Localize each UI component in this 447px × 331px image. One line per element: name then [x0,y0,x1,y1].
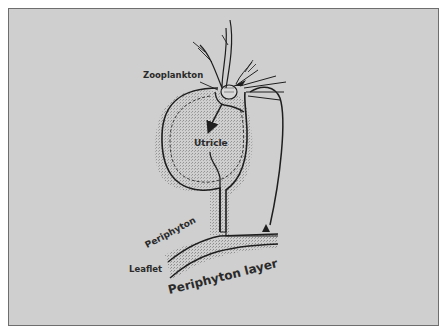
label-leaflet: Leaflet [129,264,162,274]
return-arc [250,87,283,225]
label-zooplankton: Zooplankton [143,70,203,80]
label-utricle: Utricle [194,138,228,148]
periphyton-arrow-icon [262,224,270,232]
